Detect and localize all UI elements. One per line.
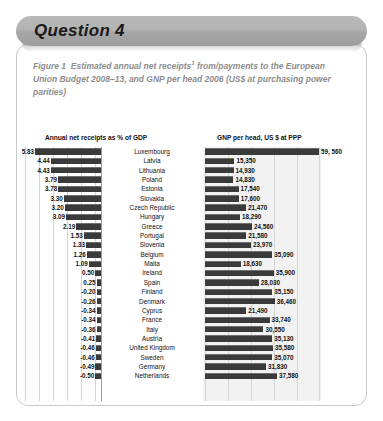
country-label: Luxembourg (103, 147, 201, 156)
right-panel-value-label: 35,090 (274, 250, 293, 259)
right-panel-value-label: 18,630 (243, 259, 262, 268)
right-panel-bar (205, 223, 252, 229)
right-panel-value-label: 59, 560 (321, 147, 342, 156)
chart-row: -0.20Finland35,150 (17, 287, 367, 296)
chart-row: -0.46Sweden35,070 (17, 353, 367, 362)
left-panel-bar (97, 307, 102, 313)
chart-row: 1.33Slovenia23,970 (17, 240, 367, 249)
question-banner: Question 4 (16, 16, 367, 50)
banner-bar: Question 4 (16, 16, 367, 46)
left-panel-value-label: -0.49 (80, 362, 94, 371)
country-label: Ireland (103, 268, 201, 277)
figure-caption: Figure 1 Estimated annual net receipts1 … (33, 59, 350, 99)
chart-row: -0.34France33,740 (17, 315, 367, 324)
country-label: Slovenia (103, 240, 201, 249)
right-panel-bar (205, 363, 266, 369)
right-panel-value-label: 21,580 (248, 231, 267, 240)
left-panel-value-label: 3.30 (50, 194, 62, 203)
right-panel-bar (205, 335, 272, 341)
left-panel-value-label: 4.43 (38, 166, 50, 175)
left-panel-value-label: -0.46 (80, 353, 94, 362)
country-label: Portugal (103, 231, 201, 240)
left-panel-bar (65, 204, 101, 210)
left-panel-bar (97, 317, 102, 323)
right-panel-value-label: 35,900 (276, 268, 295, 277)
right-panel-value-label: 33,740 (272, 315, 291, 324)
right-panel-bar (205, 345, 273, 351)
right-panel-bar (205, 261, 241, 267)
left-panel-bar (96, 335, 101, 341)
right-panel-value-label: 35,580 (275, 343, 294, 352)
country-label: Czech Republic (103, 203, 201, 212)
left-panel-bar (35, 148, 101, 154)
chart-row: 3.20Czech Republic21,470 (17, 203, 367, 212)
chart-row: -0.36Italy30,550 (17, 325, 367, 334)
chart-row: 5.83Luxembourg59, 560 (17, 147, 367, 156)
left-panel-bar (87, 251, 101, 257)
left-panel-bar (84, 232, 101, 238)
right-panel-value-label: 18,290 (242, 212, 261, 221)
chart-row: 0.25Spain28,030 (17, 278, 367, 287)
left-panel-bar (95, 270, 101, 276)
country-label: Germany (103, 362, 201, 371)
country-label: Hungary (103, 212, 201, 221)
left-panel-bar (97, 279, 102, 285)
right-panel-bar (205, 270, 274, 276)
right-panel-value-label: 28,030 (261, 278, 280, 287)
chart-row: 0.50Ireland35,900 (17, 268, 367, 277)
chart-row: 3.78Estonia17,540 (17, 184, 367, 193)
left-panel-value-label: 0.50 (82, 268, 94, 277)
right-panel-bar (205, 186, 239, 192)
left-panel-bar (97, 289, 102, 295)
right-panel-bar (205, 298, 275, 304)
right-panel-bar (205, 195, 239, 201)
left-panel-bar (96, 354, 101, 360)
country-label: Latvia (103, 156, 201, 165)
left-panel-value-label: -0.26 (81, 297, 95, 306)
right-panel-value-label: 17,600 (241, 194, 260, 203)
country-label: Lithuania (103, 166, 201, 175)
chart-row: 1.53Portugal21,580 (17, 231, 367, 240)
right-panel-header: GNP per head, US $ at PPP (217, 134, 302, 141)
left-panel-bar (58, 186, 101, 192)
right-panel-value-label: 17,540 (241, 184, 260, 193)
country-label: Spain (103, 278, 201, 287)
chart-row: -0.26Denmark36,460 (17, 297, 367, 306)
chart-row: 4.44Latvia15,350 (17, 156, 367, 165)
left-panel-value-label: -0.34 (81, 315, 95, 324)
country-label: Italy (103, 325, 201, 334)
right-panel-bar (205, 307, 246, 313)
right-panel-bar (205, 326, 263, 332)
left-panel-bar (51, 167, 101, 173)
left-panel-value-label: -0.50 (80, 371, 94, 380)
country-label: Slovakia (103, 194, 201, 203)
left-panel-bar (64, 195, 101, 201)
right-panel-value-label: 35,130 (274, 334, 293, 343)
right-panel-bar (205, 176, 233, 182)
left-panel-bar (97, 298, 102, 304)
right-panel-bar (205, 373, 277, 379)
left-panel-bar (96, 345, 101, 351)
right-panel-value-label: 21,470 (248, 203, 267, 212)
right-panel-value-label: 14,930 (236, 166, 255, 175)
chart-row: 3.79Poland14,830 (17, 175, 367, 184)
chart-row: -0.50Netherlands37,580 (17, 371, 367, 380)
country-label: Finland (103, 287, 201, 296)
left-panel-value-label: -0.34 (81, 306, 95, 315)
left-panel-bar (58, 176, 101, 182)
chart-row: -0.41Austria35,130 (17, 334, 367, 343)
left-panel-value-label: 3.79 (45, 175, 57, 184)
chart-rows: 5.83Luxembourg59, 5604.44Latvia15,3504.4… (17, 147, 367, 381)
right-panel-bar (205, 242, 251, 248)
caption-text-part1: Estimated annual net receipts (71, 61, 191, 71)
left-panel-value-label: 1.26 (73, 250, 85, 259)
right-panel-bar (205, 204, 246, 210)
left-panel-value-label: 3.20 (52, 203, 64, 212)
country-label: Netherlands (103, 371, 201, 380)
right-panel-value-label: 23,970 (253, 240, 272, 249)
page-title: Question 4 (16, 21, 125, 41)
chart-row: -0.46United Kingdom35,580 (17, 343, 367, 352)
left-panel-value-label: 3.09 (53, 212, 65, 221)
left-panel-value-label: -0.41 (81, 334, 95, 343)
left-panel-value-label: 1.53 (70, 231, 82, 240)
